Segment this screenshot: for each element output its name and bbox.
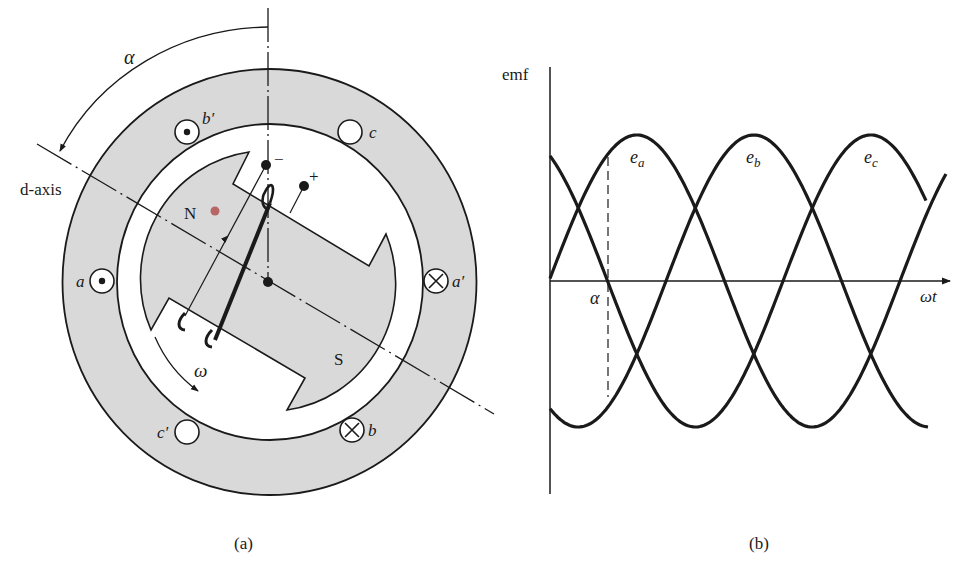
slot-c: c xyxy=(338,120,377,144)
slot-c-prime-label: c′ xyxy=(157,423,169,442)
y-axis-label: emf xyxy=(502,65,529,84)
slot-a-prime-label: a′ xyxy=(452,272,465,291)
slot-a-prime: a′ xyxy=(424,269,465,293)
current-out-dot-icon xyxy=(184,129,190,135)
south-pole-label: S xyxy=(334,350,343,369)
alpha-marker-label: α xyxy=(590,288,600,308)
caption-b: (b) xyxy=(749,534,769,553)
emf-chart: emf ωt α ea eb ec (b) xyxy=(502,65,950,553)
omega-arrow xyxy=(155,337,198,391)
d-axis-label: d-axis xyxy=(20,180,62,199)
north-pole-label: N xyxy=(184,204,196,223)
slot-c-prime: c′ xyxy=(157,420,199,444)
slot-c-label: c xyxy=(369,123,377,142)
slot-b-prime-label: b′ xyxy=(202,109,215,128)
current-out-dot-icon xyxy=(99,278,105,284)
rotor-center-dot xyxy=(263,277,273,287)
terminal-plus-label: + xyxy=(309,167,319,186)
terminal-minus-dot xyxy=(261,160,271,170)
generator-cross-section: α d-axis − + N S ω xyxy=(20,8,494,553)
caption-a: (a) xyxy=(234,534,253,553)
series-e-b-label: eb xyxy=(746,147,761,170)
slot-a: a xyxy=(76,269,114,293)
slot-a-label: a xyxy=(76,272,85,291)
terminal-plus-dot xyxy=(299,181,309,191)
x-axis-label: ωt xyxy=(920,287,938,306)
north-pole-marker xyxy=(211,207,220,216)
series-e-a-label: ea xyxy=(630,147,645,170)
terminal-minus-label: − xyxy=(274,150,284,169)
alpha-label: α xyxy=(124,46,135,68)
omega-label: ω xyxy=(194,360,207,381)
series-e-c-label: ec xyxy=(864,147,878,170)
figure-canvas: α d-axis − + N S ω xyxy=(0,0,958,568)
slot-b: b xyxy=(340,418,377,442)
slot-b-label: b xyxy=(368,421,377,440)
